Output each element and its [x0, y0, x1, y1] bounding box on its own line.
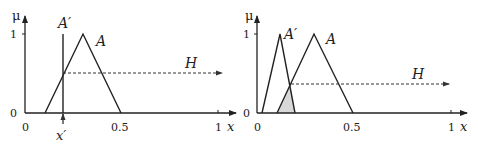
right-label-H: H [411, 66, 425, 82]
left-mu-label: μ [12, 8, 20, 23]
right-xtick-0: 0 [254, 121, 261, 134]
left-label-H: H [184, 55, 198, 71]
left-xtick-1: 1 [215, 121, 222, 134]
right-ytick-0: 0 [243, 107, 250, 120]
right-ytick-1: 1 [243, 28, 250, 41]
left-label-Aprime: A′ [56, 15, 72, 31]
left-label-xprime: x′ [56, 128, 66, 143]
left-ytick-0: 0 [10, 107, 17, 120]
right-label-Aprime: A′ [282, 26, 298, 42]
right-x-label: x [460, 119, 468, 134]
left-xtick-0: 0 [22, 121, 29, 134]
fuzzy-inference-diagram: μ 1 0 0 0.5 1 x A′ A H x′ μ 1 0 0 0.5 1 … [0, 0, 478, 144]
left-panel: μ 1 0 0 0.5 1 x A′ A H x′ [10, 8, 236, 143]
left-x-label: x [227, 119, 235, 134]
right-mu-label: μ [245, 8, 253, 23]
left-label-A: A [94, 33, 106, 49]
right-panel: μ 1 0 0 0.5 1 x A′ A H [243, 8, 468, 134]
left-xtick-05: 0.5 [111, 121, 129, 134]
left-ytick-1: 1 [10, 28, 17, 41]
right-xtick-05: 0.5 [343, 121, 361, 134]
right-label-A: A [324, 31, 336, 47]
right-xtick-1: 1 [448, 121, 455, 134]
